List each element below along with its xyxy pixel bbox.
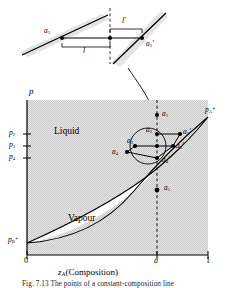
x-tick-label-a: a <box>154 257 158 265</box>
point-label-a1: a1 <box>162 110 168 119</box>
inset-label-a3: a3 <box>44 27 50 36</box>
point-label-a2: a2 <box>146 126 152 135</box>
inset-length-label-l-prime: l′ <box>122 17 126 25</box>
point-a2-prime <box>178 132 182 136</box>
inset-line-liquid <box>22 15 108 55</box>
x-tick-label-0: 0 <box>24 257 28 265</box>
region-label-liquid: Liquid <box>54 127 79 137</box>
inset-label-a3-prime: a3′ <box>146 40 154 49</box>
x-tick-label-1: 1 <box>206 257 210 265</box>
region-label-vapour: Vapour <box>68 214 95 224</box>
inset-point-a3-prime <box>140 36 144 40</box>
endpoint-label-pB-star: pB∗ <box>8 236 18 245</box>
point-label-a2-prime: a2′ <box>183 128 191 137</box>
point-a3 <box>133 144 137 148</box>
inset-bracket-l <box>62 43 110 47</box>
point-label-a3: a3 <box>127 137 133 146</box>
figure-caption: Fig. 7.13 The points of a constant-compo… <box>22 280 174 288</box>
y-tick-label-p2: p2 <box>9 129 15 138</box>
inset-bracket-l-prime <box>110 29 142 33</box>
point-label-a5: a5 <box>164 184 170 193</box>
inset-point-mid <box>108 36 112 40</box>
x-axis-label: zA(Composition) <box>58 268 118 278</box>
point-a2 <box>155 132 159 136</box>
point-label-a3-prime: a3′ <box>176 142 184 151</box>
point-a4-prime <box>155 156 159 160</box>
point-a1 <box>155 113 159 117</box>
inset-length-label-l: l <box>83 47 85 55</box>
inset-point-a3 <box>60 36 64 40</box>
point-a5 <box>155 188 160 193</box>
endpoint-label-pA-star: pA∗ <box>205 106 215 115</box>
point-a4 <box>125 150 129 154</box>
point-label-a4-prime: a4′ <box>162 156 170 165</box>
point-label-a4: a4 <box>112 148 118 157</box>
phase-diagram <box>23 100 208 259</box>
y-axis-label: p <box>29 87 34 96</box>
y-tick-label-p4: p4 <box>9 153 15 162</box>
point-a3-prime <box>171 144 175 148</box>
inset-detail <box>20 8 168 67</box>
y-tick-label-p3: p3 <box>9 141 15 150</box>
point-a3-mid <box>155 144 159 148</box>
